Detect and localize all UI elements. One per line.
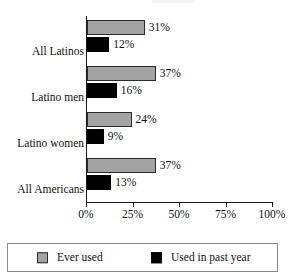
x-tick-75 xyxy=(226,202,227,207)
x-tick-label-0: 0% xyxy=(78,209,93,221)
legend-swatch-icon-used-in-past-year xyxy=(151,252,162,263)
bar-ever-used xyxy=(87,20,145,35)
bar-value-label: 24% xyxy=(136,114,157,126)
category-label-latino-men: Latino men xyxy=(2,92,84,104)
category-label-all-latinos: All Latinos xyxy=(2,46,84,58)
x-tick-25 xyxy=(133,202,134,207)
category-axis-labels: All Latinos Latino men Latino women All … xyxy=(0,16,84,202)
bar-value-label: 37% xyxy=(160,160,181,172)
category-label-all-americans: All Americans xyxy=(2,184,84,196)
x-tick-label-75: 75% xyxy=(215,209,236,221)
bar-value-label: 13% xyxy=(115,177,136,189)
bar-value-label: 12% xyxy=(113,39,134,51)
bar-value-label: 16% xyxy=(121,85,142,97)
legend: Ever used Used in past year xyxy=(7,243,278,272)
bar-used-past-year xyxy=(87,175,111,190)
x-tick-100 xyxy=(272,202,273,207)
legend-swatch-icon-ever-used xyxy=(37,252,48,263)
x-tick-0 xyxy=(86,202,87,207)
bar-used-past-year xyxy=(87,83,117,98)
legend-label: Ever used xyxy=(57,252,103,264)
x-tick-label-100: 100% xyxy=(259,209,286,221)
category-label-latino-women: Latino women xyxy=(2,138,84,150)
legend-entry-used-in-past-year: Used in past year xyxy=(151,252,251,264)
bar-ever-used xyxy=(87,66,156,81)
bar-value-label: 9% xyxy=(108,131,123,143)
scan-artifact xyxy=(152,0,194,3)
bar-used-past-year xyxy=(87,129,104,144)
legend-label: Used in past year xyxy=(171,252,251,264)
plot-area: 31% 12% 37% 16% 24% xyxy=(86,16,272,202)
legend-entry-ever-used: Ever used xyxy=(37,252,103,264)
x-tick-label-50: 50% xyxy=(168,209,189,221)
bar-chart: All Latinos Latino men Latino women All … xyxy=(0,0,288,278)
bar-used-past-year xyxy=(87,37,109,52)
x-tick-50 xyxy=(179,202,180,207)
bar-ever-used xyxy=(87,158,156,173)
x-tick-label-25: 25% xyxy=(122,209,143,221)
bar-value-label: 37% xyxy=(160,68,181,80)
bar-ever-used xyxy=(87,112,132,127)
bar-value-label: 31% xyxy=(149,22,170,34)
